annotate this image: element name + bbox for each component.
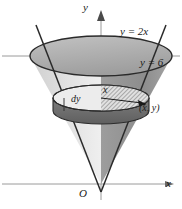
cone-disk-method-figure: y = 2x y = 6 y x O dy x (x, y)	[0, 0, 182, 209]
label-disk-radius-x: x	[103, 85, 107, 95]
label-point-xy: (x, y)	[139, 103, 160, 113]
arrow-up-icon	[97, 10, 105, 21]
label-x-axis: x	[166, 178, 171, 189]
label-y-axis: y	[83, 2, 88, 13]
label-disk-thickness-dy: dy	[71, 94, 80, 104]
label-line-y-equals-6: y = 6	[140, 57, 163, 68]
representative-disk	[53, 85, 149, 124]
label-origin: O	[79, 188, 87, 199]
label-line-y-equals-2x: y = 2x	[120, 26, 148, 37]
